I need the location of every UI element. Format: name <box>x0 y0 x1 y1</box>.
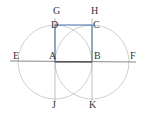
label-h: H <box>91 5 98 16</box>
label-d: D <box>51 19 58 30</box>
label-k: K <box>89 99 97 110</box>
label-a: A <box>49 50 57 61</box>
square-sides <box>55 25 92 62</box>
label-g: G <box>53 5 60 16</box>
geometry-diagram: G H D C E A B F J K <box>0 0 145 117</box>
label-e: E <box>13 50 19 61</box>
label-f: F <box>130 50 136 61</box>
label-j: J <box>52 99 56 110</box>
label-c: C <box>93 19 100 30</box>
label-b: B <box>94 50 101 61</box>
